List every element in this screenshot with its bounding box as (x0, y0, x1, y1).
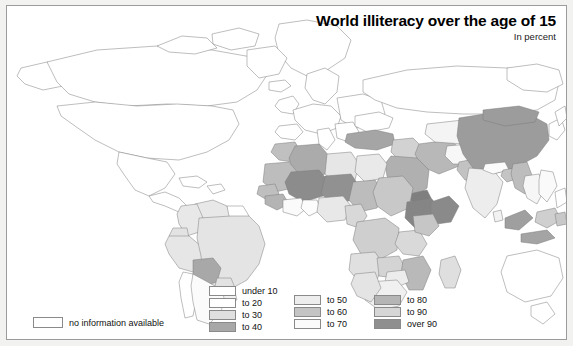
title-block: World illiteracy over the age of 15 In p… (316, 12, 556, 43)
legend-label: to 60 (327, 307, 347, 317)
legend-label: to 90 (407, 307, 427, 317)
legend-swatch (209, 322, 236, 332)
legend-label: no information available (69, 318, 164, 328)
legend-column-1: under 10 to 20 to 30 to 40 (209, 285, 278, 332)
legend-label: to 20 (242, 298, 262, 308)
legend-swatch (209, 286, 236, 296)
region-mali (285, 170, 329, 202)
region-iberia (275, 124, 303, 140)
legend-item: under 10 (209, 285, 278, 296)
legend-swatch (33, 317, 63, 328)
legend-label: under 10 (242, 286, 278, 296)
legend-label: over 90 (407, 319, 437, 329)
legend-swatch (294, 319, 321, 329)
legend-item: over 90 (374, 318, 437, 329)
region-new-zealand (531, 302, 555, 324)
legend-item: to 80 (374, 294, 437, 305)
region-sri-lanka (493, 210, 503, 222)
legend-swatch (294, 295, 321, 305)
region-canada-arctic-2 (212, 28, 259, 50)
legend-item: to 70 (294, 318, 347, 329)
legend-swatch (209, 298, 236, 308)
region-philippines (555, 188, 567, 208)
region-australia (501, 250, 563, 302)
legend-label: to 30 (242, 310, 262, 320)
world-map (7, 6, 567, 340)
legend-swatch (374, 319, 401, 329)
region-turkey (345, 130, 395, 150)
chart-subtitle: In percent (316, 31, 556, 43)
legend-no-information: no information available (33, 317, 164, 328)
region-hispaniola (207, 184, 225, 194)
region-scandinavia (305, 68, 339, 104)
legend-item: to 40 (209, 321, 278, 332)
region-india (465, 168, 503, 218)
legend-label: to 70 (327, 319, 347, 329)
region-madagascar (439, 256, 461, 288)
region-indonesia-sumatra (505, 210, 533, 230)
legend-swatch (374, 295, 401, 305)
legend-item: to 30 (209, 309, 278, 320)
legend-label: to 80 (407, 295, 427, 305)
legend-item: to 90 (374, 306, 437, 317)
map-frame: World illiteracy over the age of 15 In p… (6, 5, 567, 340)
legend-item: to 20 (209, 297, 278, 308)
legend-swatch (374, 307, 401, 317)
region-cuba (179, 176, 207, 188)
legend-label: to 40 (242, 322, 262, 332)
region-vietnam (539, 170, 557, 202)
region-ukraine (355, 112, 393, 132)
region-papua (555, 212, 567, 226)
legend-column-2: to 50 to 60 to 70 (294, 294, 347, 329)
region-usa (57, 102, 239, 160)
legend-column-3: to 80 to 90 over 90 (374, 294, 437, 329)
legend-swatch (209, 310, 236, 320)
page-title: World illiteracy over the age of 15 (316, 12, 556, 30)
legend-item: to 60 (294, 306, 347, 317)
region-iceland (269, 80, 291, 92)
legend-label: to 50 (327, 295, 347, 305)
legend-swatch (294, 307, 321, 317)
infographic-figure: World illiteracy over the age of 15 In p… (0, 0, 573, 346)
region-indonesia-java (521, 230, 555, 244)
region-canada (47, 46, 269, 106)
legend-item: to 50 (294, 294, 347, 305)
